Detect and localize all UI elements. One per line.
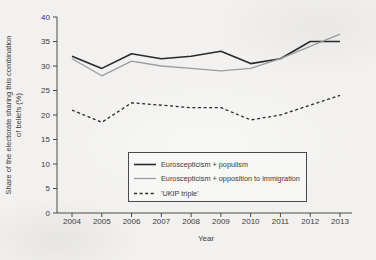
- y-tick-label: 30: [41, 62, 50, 71]
- x-tick-label: 2010: [242, 217, 260, 226]
- x-tick-label: 2004: [63, 217, 81, 226]
- legend-label: Euroscepticism + opposition to immigrati…: [161, 175, 300, 182]
- legend-item-immigration: Euroscepticism + opposition to immigrati…: [134, 172, 306, 187]
- solid-black-line-sample: [134, 162, 156, 167]
- legend: Euroscepticism + populism Euroscepticism…: [128, 152, 307, 202]
- x-tick-label: 2008: [182, 217, 200, 226]
- y-axis-title-line2: of beliefs (%): [14, 93, 23, 137]
- y-tick-label: 40: [41, 13, 50, 22]
- x-tick-label: 2011: [272, 217, 290, 226]
- figure: 0510152025303540200420052006200720082009…: [0, 0, 376, 260]
- y-axis-title-line1: Share of the electorate sharing this com…: [4, 36, 13, 195]
- series-line-1: [72, 34, 340, 76]
- x-tick-label: 2007: [152, 217, 170, 226]
- y-tick-label: 10: [41, 160, 50, 169]
- solid-gray-line-sample: [134, 176, 156, 181]
- dashed-line-sample: [134, 191, 156, 196]
- y-tick-label: 35: [41, 37, 50, 46]
- y-tick-label: 5: [46, 184, 51, 193]
- series-line-0: [72, 42, 340, 69]
- line-chart: 0510152025303540200420052006200720082009…: [0, 0, 376, 260]
- y-tick-label: 0: [46, 209, 51, 218]
- legend-item-ukip-triple: 'UKIP triple': [134, 186, 306, 201]
- legend-item-populism: Euroscepticism + populism: [134, 157, 306, 172]
- y-tick-label: 15: [41, 135, 50, 144]
- x-tick-label: 2009: [212, 217, 230, 226]
- y-tick-label: 20: [41, 111, 50, 120]
- legend-label: 'UKIP triple': [161, 190, 199, 197]
- x-tick-label: 2005: [93, 217, 111, 226]
- y-tick-label: 25: [41, 86, 50, 95]
- x-tick-label: 2006: [123, 217, 141, 226]
- x-tick-label: 2013: [331, 217, 349, 226]
- series-line-2: [72, 95, 340, 122]
- x-tick-label: 2012: [301, 217, 319, 226]
- legend-label: Euroscepticism + populism: [161, 161, 248, 168]
- x-axis-title: Year: [198, 234, 215, 243]
